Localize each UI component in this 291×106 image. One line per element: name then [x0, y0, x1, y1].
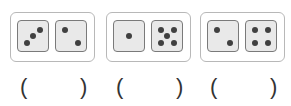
pip — [171, 40, 177, 46]
die-face-3-icon — [17, 20, 49, 52]
pip — [30, 33, 36, 39]
answer-open-paren: ( — [116, 76, 123, 98]
pip — [171, 27, 177, 33]
pip — [75, 40, 81, 46]
dice-pair-2 — [106, 12, 191, 62]
pip — [126, 33, 132, 39]
dice-pair-1 — [10, 12, 95, 62]
die-face-2-icon — [207, 20, 239, 52]
pip — [158, 27, 164, 33]
pip — [265, 40, 271, 46]
dice-pair-3 — [200, 12, 285, 62]
answer-open-paren: ( — [20, 76, 27, 98]
pip — [62, 27, 68, 33]
answer-open-paren: ( — [210, 76, 217, 98]
die-face-1-icon — [113, 20, 145, 52]
pip — [227, 40, 233, 46]
pip — [164, 33, 170, 39]
die-face-2-icon — [55, 20, 87, 52]
answer-close-paren: ) — [270, 76, 277, 98]
pip — [214, 27, 220, 33]
pip — [158, 40, 164, 46]
pip — [37, 27, 43, 33]
answer-close-paren: ) — [176, 76, 183, 98]
die-face-5-icon — [151, 20, 183, 52]
pip — [24, 40, 30, 46]
answer-close-paren: ) — [80, 76, 87, 98]
pip — [252, 27, 258, 33]
pip — [252, 40, 258, 46]
pip — [265, 27, 271, 33]
die-face-4-icon — [245, 20, 277, 52]
